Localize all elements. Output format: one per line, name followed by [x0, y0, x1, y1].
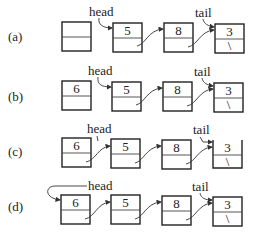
null-link: \ [226, 211, 230, 226]
node-1: 5 [113, 23, 142, 52]
node-value: 8 [173, 140, 180, 155]
row-label: (a) [8, 29, 22, 44]
node-value: 6 [72, 195, 79, 210]
node-value: 3 [226, 24, 233, 39]
row-label: (b) [8, 89, 23, 104]
node-value: 6 [73, 138, 80, 153]
node-3-open-top: 3 \ [213, 140, 242, 169]
null-link: \ [227, 97, 231, 112]
row-b: (b) 6 5 8 3 \ head tail [8, 63, 243, 112]
row-label: (d) [8, 199, 23, 214]
node-3: 3 \ [214, 83, 243, 112]
tail-arrow [200, 137, 212, 142]
head-label: head [87, 121, 112, 136]
row-a: (a) 5 8 3 \ head tail [8, 4, 244, 53]
tail-arrow [202, 78, 213, 86]
tail-label: tail [192, 179, 209, 194]
tail-arrow [203, 19, 214, 27]
node-2: 8 [162, 140, 191, 169]
row-c: (c) 6 5 8 3 \ head tail [8, 121, 242, 169]
tail-arrow [200, 193, 212, 200]
node-2: 8 [164, 23, 193, 52]
node-value: 6 [73, 81, 80, 96]
null-link: \ [226, 154, 230, 169]
node-2: 8 [162, 196, 191, 225]
node-value: 8 [173, 196, 180, 211]
linked-list-diagram: (a) 5 8 3 \ head tail (b) [0, 0, 254, 243]
tail-label: tail [194, 64, 211, 79]
node-value: 8 [174, 82, 181, 97]
tail-label: tail [193, 122, 210, 137]
node-2: 8 [163, 82, 192, 111]
null-link: \ [228, 38, 232, 53]
head-label: head [89, 4, 114, 19]
node-1: 5 [111, 139, 140, 168]
node-value: 5 [122, 195, 129, 210]
head-tick [97, 136, 98, 141]
node-value: 3 [225, 83, 232, 98]
node-value: 8 [175, 23, 182, 38]
head-arrow [99, 18, 112, 28]
node-value: 5 [122, 139, 129, 154]
node-1: 5 [112, 82, 141, 111]
node-value: 3 [224, 140, 231, 155]
node-0: 6 [62, 138, 91, 167]
node-1: 5 [111, 195, 140, 224]
node-value: 5 [124, 23, 131, 38]
node-0 [62, 22, 91, 51]
node-value: 3 [224, 197, 231, 212]
node-3: 3 \ [215, 24, 244, 53]
row-label: (c) [8, 144, 22, 159]
tail-label: tail [195, 5, 212, 20]
node-3: 3 \ [213, 197, 242, 226]
head-label: head [88, 178, 113, 193]
node-value: 5 [123, 82, 130, 97]
node-0: 6 [62, 81, 91, 110]
node-0: 6 [61, 195, 90, 224]
head-label: head [88, 63, 113, 78]
row-d: (d) 6 5 8 3 \ head tail [8, 178, 242, 226]
head-arrow [98, 77, 111, 87]
